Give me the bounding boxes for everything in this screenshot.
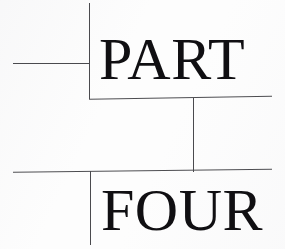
part-divider-page: PART FOUR [0,0,285,249]
part-number-word: FOUR [101,180,263,240]
rule-lower-vertical [90,171,91,245]
part-label: PART [99,29,245,89]
